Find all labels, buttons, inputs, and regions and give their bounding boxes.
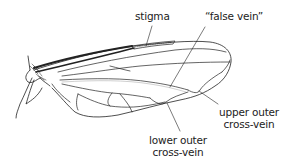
label-upper-outer-cross-vein-line1: upper outer — [216, 106, 282, 118]
anal-vein — [52, 84, 70, 102]
label-lower-outer-cross-vein: lower outer cross-vein — [146, 134, 210, 158]
label-lower-outer-cross-vein-line1: lower outer — [146, 134, 210, 146]
upper-outer-cross-vein-leader-line — [199, 91, 218, 104]
lower-outer-cross-vein-leader-line — [167, 103, 180, 131]
label-stigma-text: stigma — [135, 10, 170, 22]
false-vein — [60, 79, 188, 90]
label-stigma: stigma — [135, 10, 170, 22]
label-false-vein: “false vein” — [205, 10, 263, 22]
cross-vein-a — [108, 93, 112, 106]
false-vein-inner — [62, 81, 186, 92]
cross-vein-b — [77, 94, 79, 110]
label-lower-outer-cross-vein-line2: cross-vein — [146, 146, 210, 158]
stigma-cell — [132, 41, 175, 49]
label-false-vein-text: “false vein” — [205, 10, 263, 22]
costa-vein — [34, 46, 132, 68]
radial-vein-2 — [62, 62, 230, 76]
wing-outline — [34, 41, 231, 117]
radial-vein-3 — [110, 66, 130, 71]
wing-diagram: stigma “false vein” upper outer cross-ve… — [0, 0, 291, 168]
label-upper-outer-cross-vein: upper outer cross-vein — [216, 106, 282, 130]
false-vein-leader-line — [170, 27, 205, 87]
cross-vein-c — [120, 94, 132, 112]
upper-outer-cross-vein — [188, 72, 222, 93]
label-upper-outer-cross-vein-line2: cross-vein — [216, 118, 282, 130]
lower-vein-1 — [62, 84, 150, 98]
